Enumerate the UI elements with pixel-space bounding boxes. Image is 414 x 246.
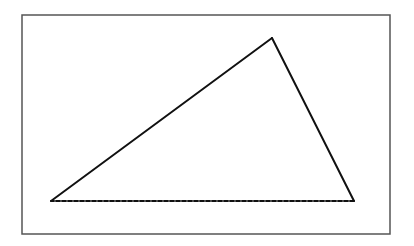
- triangle-edge-left-to-top: [51, 38, 272, 201]
- triangle-diagram: [0, 0, 414, 246]
- triangle-edge-top-to-right: [272, 38, 354, 201]
